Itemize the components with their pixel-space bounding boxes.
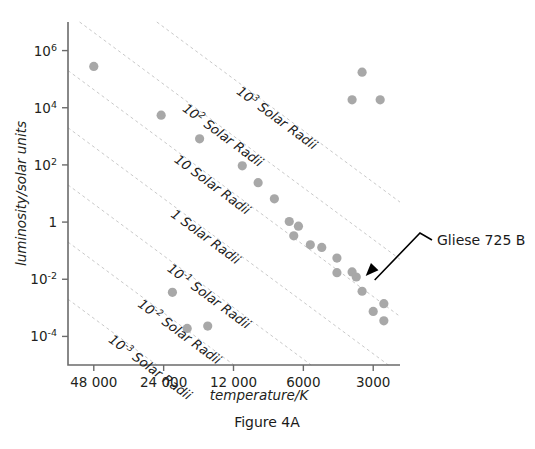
- annotation-layer: Gliese 725 B: [366, 232, 526, 280]
- data-point-18: [347, 95, 356, 104]
- x-axis-title-label: temperature/K: [210, 387, 310, 403]
- y-tick-label-3: 1: [48, 214, 57, 230]
- y-tick-label-5: 10-4: [30, 327, 57, 344]
- data-point-21: [379, 316, 388, 325]
- y-tick-label-2: 102: [34, 156, 57, 173]
- data-point-12: [332, 268, 341, 277]
- annotation-arrow-head: [366, 263, 379, 276]
- data-point-14: [352, 272, 361, 281]
- data-point-19: [376, 95, 385, 104]
- solar-radii-label-1: 102 Solar Radii: [180, 100, 267, 170]
- y-tick-label-0: 106: [34, 42, 57, 59]
- data-point-7: [294, 222, 303, 231]
- data-point-6: [285, 217, 294, 226]
- data-point-15: [358, 287, 367, 296]
- data-point-9: [306, 240, 315, 249]
- data-point-11: [332, 253, 341, 262]
- data-point-4: [254, 178, 263, 187]
- data-point-5: [270, 194, 279, 203]
- x-tick-label-1: 24 000: [140, 374, 187, 390]
- solar-radii-label-0: 103 Solar Radii: [234, 83, 321, 153]
- x-tick-label-0: 48 000: [70, 374, 117, 390]
- solar-radii-label-3: 1 Solar Radii: [168, 206, 243, 267]
- y-tick-label-4: 10-2: [30, 270, 57, 287]
- data-point-8: [289, 231, 298, 240]
- data-point-20: [379, 299, 388, 308]
- y-tick-label-1: 104: [34, 99, 57, 116]
- annotation-gliese-label: Gliese 725 B: [437, 232, 525, 248]
- data-point-0: [89, 62, 98, 71]
- data-point-2: [195, 134, 204, 143]
- data-point-17: [358, 68, 367, 77]
- data-point-1: [157, 111, 166, 120]
- x-tick-label-4: 3000: [356, 374, 390, 390]
- data-point-22: [168, 288, 177, 297]
- data-point-10: [317, 243, 326, 252]
- y-axis-title-label: luminosity/solar units: [13, 121, 29, 266]
- annotation-arrow-line: [375, 233, 432, 280]
- figure-container: 103 Solar Radii102 Solar Radii10 Solar R…: [0, 0, 535, 449]
- data-point-24: [203, 321, 212, 330]
- figure-caption: Figure 4A: [234, 414, 300, 430]
- data-point-3: [238, 161, 247, 170]
- data-point-16: [369, 307, 378, 316]
- chart-text-labels: 103 Solar Radii102 Solar Radii10 Solar R…: [13, 42, 390, 430]
- hr-diagram-chart: 103 Solar Radii102 Solar Radii10 Solar R…: [0, 0, 535, 449]
